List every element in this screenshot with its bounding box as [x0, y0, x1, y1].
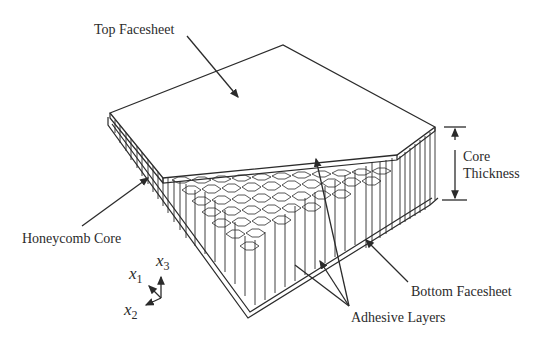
bottom-facesheet-label: Bottom Facesheet — [411, 284, 512, 300]
adhesive-leader-bottom — [320, 261, 349, 306]
core-thickness-label-line1: Core — [463, 149, 490, 165]
honeycomb-core-leader — [82, 178, 148, 226]
top-facesheet-label: Top Facesheet — [94, 22, 174, 38]
honeycomb-core-label: Honeycomb Core — [22, 231, 121, 247]
adhesive-layers-label: Adhesive Layers — [351, 310, 445, 326]
core-thickness-label-line2: Thickness — [463, 166, 520, 182]
honeycomb-sandwich-diagram: Top Facesheet Core Thickness Honeycomb C… — [0, 0, 546, 342]
axis-x2-label: x2 — [124, 300, 138, 323]
axis-x1-label: x1 — [129, 264, 143, 287]
axis-x3-label: x3 — [156, 251, 170, 274]
bottom-facesheet-leader — [366, 240, 408, 282]
